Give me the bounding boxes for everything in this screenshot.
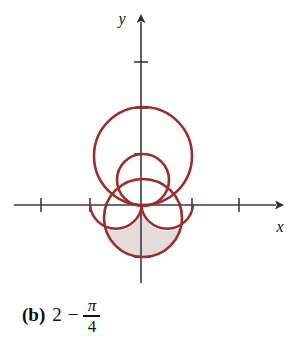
caption-leading-number: 2 bbox=[52, 304, 62, 326]
figure-root: y x (b) 2 − π 4 bbox=[0, 0, 298, 353]
y-axis-label: y bbox=[116, 10, 126, 28]
figure-caption: (b) 2 − π 4 bbox=[22, 296, 100, 334]
x-axis-label: x bbox=[275, 218, 283, 235]
caption-fraction: π 4 bbox=[83, 297, 100, 335]
caption-minus-operator: − bbox=[68, 304, 79, 326]
fraction-denominator: 4 bbox=[85, 317, 100, 335]
fraction-numerator: π bbox=[85, 297, 100, 315]
caption-label: (b) bbox=[22, 304, 45, 326]
